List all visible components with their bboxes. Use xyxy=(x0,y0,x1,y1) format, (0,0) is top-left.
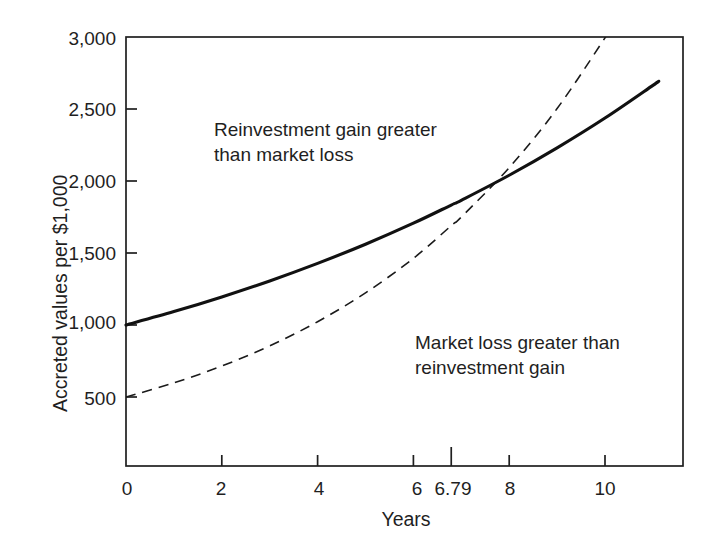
chart-figure: Accreted values per $1,000 3,000 2,500 2… xyxy=(0,0,709,555)
x-axis-ticks xyxy=(222,447,605,466)
plot-canvas xyxy=(0,0,709,555)
accreted-value-curve xyxy=(126,81,659,325)
y-axis-ticks xyxy=(126,109,137,397)
market-value-curve xyxy=(126,27,612,397)
plot-frame xyxy=(126,37,683,466)
